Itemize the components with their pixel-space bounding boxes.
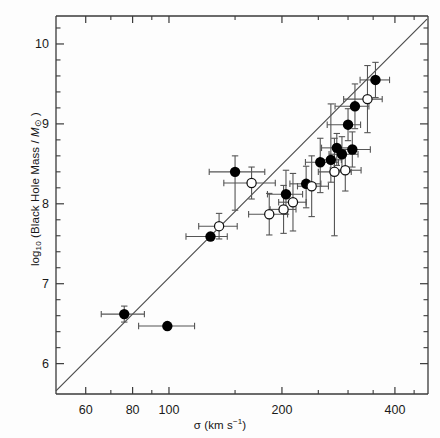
y-axis-title-prefix: log (29, 250, 41, 266)
x-axis-title-prefix: σ (km s (194, 419, 233, 431)
x-tick-label: 200 (272, 403, 293, 417)
data-point-open (214, 222, 223, 231)
data-point-open (288, 198, 297, 207)
data-point-filled (343, 119, 353, 129)
data-point-filled (337, 149, 347, 159)
x-tick-label: 60 (79, 403, 93, 417)
y-axis-title-subscript: 10 (34, 241, 43, 250)
data-point-open (247, 178, 256, 187)
y-axis-title-symbol: M (29, 127, 41, 137)
scatter-plot-figure: 6080100200400678910 log10 (Black Hole Ma… (0, 0, 440, 438)
y-axis-title-main: (Black Hole Mass / (29, 137, 41, 241)
data-point-filled (326, 155, 336, 165)
data-point-filled (350, 101, 360, 111)
x-axis-title: σ (km s−1) (0, 417, 440, 431)
data-point-filled (162, 321, 172, 331)
data-point-open (307, 182, 316, 191)
x-tick-label: 80 (126, 403, 140, 417)
data-point-filled (315, 157, 325, 167)
data-point-open (265, 210, 274, 219)
y-axis-title: log10 (Black Hole Mass / M⊙ ) (29, 74, 43, 304)
data-point-filled (347, 144, 357, 154)
x-axis-title-exponent: −1 (233, 417, 242, 426)
data-point-open (363, 95, 372, 104)
data-point-open (330, 167, 339, 176)
data-point-filled (119, 309, 129, 319)
x-tick-label: 400 (384, 403, 405, 417)
data-point-open (279, 205, 288, 214)
solar-mass-icon: ⊙ (33, 119, 43, 127)
y-tick-label: 6 (42, 357, 49, 371)
data-point-open (341, 166, 350, 175)
plot-canvas: 6080100200400678910 (0, 0, 440, 438)
data-point-filled (370, 75, 380, 85)
y-tick-label: 9 (42, 117, 49, 131)
data-point-filled (205, 231, 215, 241)
x-axis-title-suffix: ) (242, 419, 246, 431)
y-tick-label: 10 (35, 37, 49, 51)
x-tick-label: 100 (159, 403, 180, 417)
data-point-filled (281, 189, 291, 199)
y-axis-title-suffix: ) (29, 112, 41, 119)
y-tick-label: 7 (42, 277, 49, 291)
fit-line (56, 19, 427, 391)
y-tick-label: 8 (42, 197, 49, 211)
data-point-filled (230, 167, 240, 177)
